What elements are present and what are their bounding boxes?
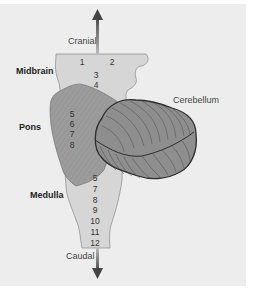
cranial-label: Cranial — [68, 36, 97, 46]
pons-label: Pons — [19, 122, 41, 132]
brainstem-diagram — [0, 0, 253, 292]
nerve-number: 10 — [88, 216, 102, 226]
nerve-number: 7 — [88, 184, 102, 194]
cerebellum-label: Cerebellum — [173, 95, 219, 105]
nerve-number: 11 — [88, 227, 102, 237]
cranial-arrow — [92, 9, 103, 54]
nerve-number: 3 — [89, 70, 103, 80]
nerve-number: 1 — [75, 57, 89, 67]
nerve-number: 8 — [88, 195, 102, 205]
nerve-number: 12 — [88, 238, 102, 248]
nerve-number: 2 — [105, 57, 119, 67]
midbrain-label: Midbrain — [16, 66, 54, 76]
nerve-number: 4 — [89, 80, 103, 90]
nerve-number: 5 — [65, 109, 79, 119]
nerve-number: 7 — [65, 129, 79, 139]
nerve-number: 8 — [65, 140, 79, 150]
medulla-label: Medulla — [30, 190, 64, 200]
nerve-number: 5 — [88, 173, 102, 183]
caudal-label: Caudal — [66, 251, 95, 261]
nerve-number: 6 — [65, 119, 79, 129]
nerve-number: 9 — [88, 205, 102, 215]
